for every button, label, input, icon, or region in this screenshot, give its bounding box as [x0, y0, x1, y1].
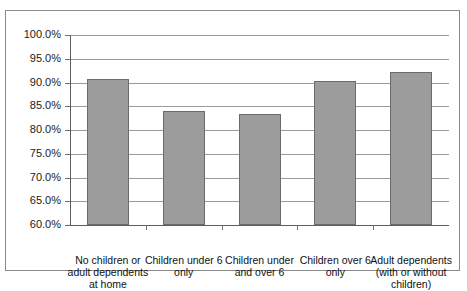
- x-axis-line: [70, 225, 449, 226]
- bar: [87, 79, 129, 225]
- x-axis-tick: [146, 225, 147, 230]
- x-axis-tick: [222, 225, 223, 230]
- y-axis-label: 85.0%: [3, 100, 61, 111]
- x-axis-tick: [297, 225, 298, 230]
- bar: [239, 114, 281, 225]
- y-axis-label: 65.0%: [3, 195, 61, 206]
- x-axis-category-label: Children over 6 only: [293, 254, 377, 278]
- y-axis-label: 80.0%: [3, 124, 61, 135]
- bar: [390, 72, 432, 225]
- chart-frame: 100.0%95.0%90.0%85.0%80.0%75.0%70.0%65.0…: [5, 10, 460, 271]
- plot-area: 100.0%95.0%90.0%85.0%80.0%75.0%70.0%65.0…: [70, 35, 449, 225]
- x-axis-category-label: No children or adult dependents at home: [66, 254, 150, 291]
- y-axis-label: 100.0%: [3, 29, 61, 40]
- x-axis-category-label: Adult dependents (with or without childr…: [369, 254, 453, 291]
- y-axis-label: 90.0%: [3, 77, 61, 88]
- y-axis-label: 95.0%: [3, 53, 61, 64]
- x-axis-category-label: Children under 6 only: [142, 254, 226, 278]
- y-axis-label: 75.0%: [3, 148, 61, 159]
- x-axis-tick: [373, 225, 374, 230]
- gridline: [70, 35, 449, 36]
- bar: [314, 81, 356, 225]
- y-axis-label: 60.0%: [3, 219, 61, 230]
- gridline: [70, 59, 449, 60]
- y-axis-line: [70, 35, 71, 225]
- y-axis-label: 70.0%: [3, 172, 61, 183]
- x-axis-category-label: Children under and over 6: [218, 254, 302, 278]
- bar: [163, 111, 205, 225]
